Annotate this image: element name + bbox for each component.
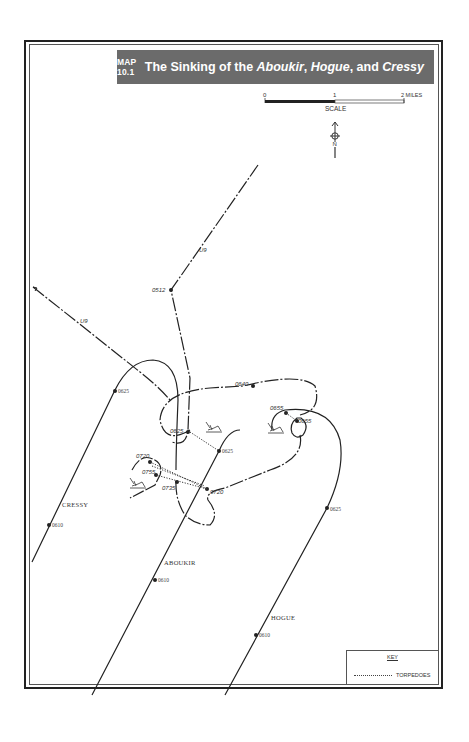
north-label: N <box>333 141 337 147</box>
aboukir-track <box>92 379 317 695</box>
track-point <box>169 288 173 292</box>
map-key: KEY TORPEDOES <box>346 650 438 684</box>
time-0640: 0640 <box>235 381 249 387</box>
scale-tick-1: 1 <box>333 92 337 98</box>
cressy-track <box>32 360 178 562</box>
track-point <box>325 506 329 510</box>
ship-label-hogue: HOGUE <box>271 614 295 621</box>
time-0720-hogue: 0720 <box>210 489 224 495</box>
dotted-line-icon <box>354 675 392 676</box>
north-arrow-icon: N <box>330 122 340 158</box>
key-item-label: TORPEDOES <box>396 672 430 678</box>
time-0610-cressy: 0610 <box>52 522 63 528</box>
sinking-ship-icon <box>268 423 284 433</box>
time-0755: 0755 <box>142 469 156 475</box>
hogue-track <box>176 409 341 695</box>
track-point <box>113 389 117 393</box>
time-0625-aboukir: 0625 <box>222 448 233 454</box>
ship-label-cressy: CRESSY <box>62 501 88 508</box>
time-0655-b: 0655 <box>298 418 312 424</box>
sinking-ship-icon <box>206 422 222 432</box>
u9-track <box>33 165 258 443</box>
time-0625-hogue: 0625 <box>330 506 341 512</box>
key-item-torpedoes: TORPEDOES <box>354 672 430 678</box>
time-0655-a: 0655 <box>270 405 284 411</box>
scale-bar: 0 1 2 MILES SCALE <box>263 92 422 112</box>
scale-label: SCALE <box>325 105 347 112</box>
time-0610-aboukir: 0610 <box>158 577 169 583</box>
u9-label-top: U9 <box>199 247 207 253</box>
u9-label-left: U9 <box>80 318 88 324</box>
track-point <box>254 633 258 637</box>
time-0610-hogue: 0610 <box>259 632 270 638</box>
time-0625-cressy: 0625 <box>118 388 129 394</box>
time-0512: 0512 <box>152 287 166 293</box>
track-point <box>186 430 190 434</box>
key-title: KEY <box>347 654 438 660</box>
track-point <box>153 578 157 582</box>
time-0625-u9: 0625 <box>170 428 184 434</box>
track-point <box>251 384 255 388</box>
time-0720-cressy: 0720 <box>136 453 150 459</box>
scale-tick-2: 2 MILES <box>401 92 422 98</box>
ship-label-aboukir: ABOUKIR <box>164 559 196 566</box>
sinking-ship-icon <box>130 478 146 488</box>
map-canvas: 0 1 2 MILES SCALE N U9 U9 0512 0625 0610… <box>0 0 469 742</box>
scale-tick-0: 0 <box>263 92 267 98</box>
track-point <box>47 523 51 527</box>
time-0735: 0735 <box>162 485 176 491</box>
